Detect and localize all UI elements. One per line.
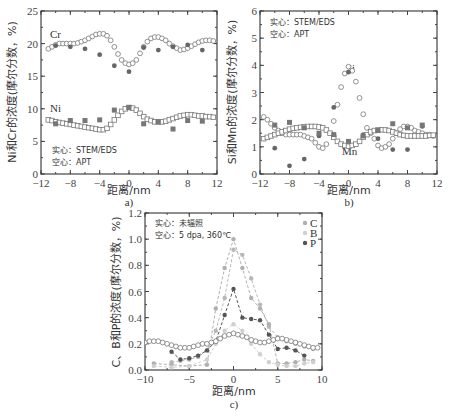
x-tick-label: 12 [212, 177, 223, 189]
legend-label: P [310, 237, 316, 249]
data-point [108, 122, 113, 127]
data-point [287, 120, 292, 125]
data-point [346, 139, 351, 144]
marker-annotation: 空心：APT [270, 29, 309, 39]
data-point [231, 237, 235, 241]
data-point [390, 136, 395, 141]
data-point [320, 146, 325, 151]
data-point [249, 317, 253, 321]
marker-annotation: 实心：STEM/EDS [270, 17, 335, 27]
marker-annotation: 空心：APT [52, 157, 91, 167]
data-point [83, 118, 88, 123]
data-point [53, 43, 58, 48]
x-tick-label: 0 [231, 373, 237, 385]
data-point [331, 132, 336, 137]
marker-annotation: 实心：STEM/EDS [52, 145, 117, 155]
data-point [376, 128, 381, 133]
data-point [317, 131, 322, 136]
data-point [302, 157, 307, 162]
data-point [244, 335, 249, 340]
data-point [315, 345, 320, 350]
y-axis-label: Ni和Cr的浓度(摩尔分数，%) [5, 21, 19, 163]
data-point [240, 329, 244, 333]
x-axis-label: 距离/nm [212, 384, 255, 398]
data-point [97, 52, 102, 57]
y-tick-label: 2 [252, 114, 258, 126]
y-axis-label: Si和Mn的浓度(摩尔分数，%) [225, 20, 239, 165]
data-point [152, 364, 156, 368]
data-point [205, 348, 209, 352]
data-point [302, 361, 306, 365]
y-tick-label: 1.0 [128, 233, 142, 245]
data-point [213, 339, 218, 344]
series-label: Ni [50, 102, 61, 114]
x-tick-label: 4 [156, 177, 162, 189]
data-point [293, 364, 297, 368]
data-point [211, 39, 216, 44]
data-point [141, 121, 146, 126]
data-point [387, 142, 392, 147]
data-point [196, 353, 200, 357]
legend-marker [303, 221, 307, 225]
data-point [376, 136, 381, 141]
y-tick-label: 10 [27, 103, 39, 115]
x-tick-label: −8 [284, 177, 296, 189]
data-point [431, 133, 436, 138]
series-label: Cr [50, 28, 61, 40]
data-point [68, 44, 73, 49]
data-point [284, 346, 288, 350]
data-point [313, 140, 318, 145]
chart-panel-c: −10−505100.00.20.40.60.81.01.2距离/nmC、B和P… [109, 207, 328, 411]
data-point [83, 46, 88, 51]
data-point [258, 306, 262, 310]
data-point [105, 33, 110, 38]
data-point [187, 364, 191, 368]
marker-annotation: 空心：5 dpa, 360℃ [155, 230, 231, 240]
panel-caption: b) [344, 196, 354, 209]
data-point [200, 119, 205, 124]
data-point [218, 336, 223, 341]
data-point [309, 136, 314, 141]
data-point [258, 318, 262, 322]
y-axis-label: C、B和P的浓度(摩尔分数，%) [109, 217, 123, 368]
data-point [276, 347, 280, 351]
data-point [420, 123, 425, 128]
data-point [156, 48, 161, 53]
y-tick-label: 1 [252, 141, 258, 153]
data-point [302, 125, 307, 130]
x-tick-label: 8 [405, 177, 411, 189]
data-point [222, 296, 226, 300]
x-tick-label: 4 [375, 177, 381, 189]
figure-canvas: −12−8−4048120510152025距离/nmNi和Cr的浓度(摩尔分数… [0, 0, 452, 419]
data-point [116, 52, 121, 57]
data-point [231, 287, 235, 291]
chart-panel-b: −12−8−4048120123456距离/nmSi和Mn的浓度(摩尔分数，%)… [225, 5, 443, 209]
data-point [267, 360, 271, 364]
data-point [178, 357, 182, 361]
y-tick-label: 0 [33, 168, 39, 180]
data-point [200, 48, 205, 53]
y-tick-label: 5 [33, 135, 39, 147]
y-tick-label: 0.6 [128, 286, 142, 298]
y-tick-label: 0.4 [128, 312, 142, 324]
x-tick-label: −8 [64, 177, 76, 189]
y-tick-label: 25 [27, 5, 39, 17]
data-point [267, 322, 271, 326]
data-point [346, 64, 351, 69]
x-tick-label: −5 [183, 373, 195, 385]
data-point [272, 146, 277, 151]
data-point [185, 43, 190, 48]
data-point [214, 306, 218, 310]
data-point [205, 357, 209, 361]
x-axis-label: 距离/nm [327, 183, 370, 197]
data-point [331, 105, 336, 110]
data-point [258, 302, 262, 306]
data-point [138, 51, 143, 56]
data-point [249, 276, 253, 280]
data-point [187, 356, 191, 360]
data-point [302, 357, 306, 361]
marker-annotation: 实心：未辐照 [155, 218, 203, 228]
x-axis-label: 距离/nm [107, 183, 150, 197]
data-point [222, 313, 226, 317]
data-point [214, 329, 218, 333]
